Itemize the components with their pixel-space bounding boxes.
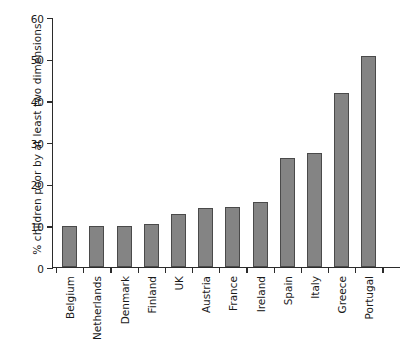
y-axis-tick-label: 60 bbox=[31, 13, 44, 25]
bar bbox=[253, 202, 268, 267]
y-axis-tick-label: 10 bbox=[31, 221, 44, 233]
x-axis-tick-label: Portugal bbox=[363, 276, 375, 320]
x-axis-tick-label: Greece bbox=[336, 276, 348, 313]
x-axis-tick-label: Finland bbox=[146, 276, 158, 314]
x-axis-tick-label: Italy bbox=[309, 276, 321, 299]
y-axis-tick: 10 bbox=[47, 226, 52, 227]
bar bbox=[62, 226, 77, 266]
bar bbox=[307, 153, 322, 266]
y-axis-tick: 20 bbox=[47, 185, 52, 186]
bar bbox=[198, 208, 213, 266]
x-axis-tick-label: Belgium bbox=[64, 276, 76, 319]
y-axis-tick-label: 50 bbox=[31, 54, 44, 66]
x-axis-labels: BelgiumNetherlandsDenmarkFinlandUKAustri… bbox=[52, 270, 400, 343]
x-axis-tick-label: UK bbox=[173, 276, 185, 291]
bar bbox=[361, 56, 376, 267]
bar bbox=[89, 226, 104, 266]
y-axis-tick-label: 40 bbox=[31, 96, 44, 108]
bar bbox=[334, 93, 349, 267]
x-axis-tick-label: Netherlands bbox=[91, 276, 103, 340]
x-axis-tick-label: France bbox=[227, 276, 239, 311]
x-axis-tick-label: Austria bbox=[200, 276, 212, 313]
y-axis-tick: 0 bbox=[47, 268, 52, 269]
bar-chart: % children poor by at least two dimensio… bbox=[0, 0, 420, 343]
x-axis-tick-label: Spain bbox=[282, 276, 294, 305]
y-axis-tick: 40 bbox=[47, 101, 52, 102]
x-axis-tick-label: Ireland bbox=[255, 276, 267, 312]
y-axis-tick: 30 bbox=[47, 143, 52, 144]
bar bbox=[280, 158, 295, 266]
y-axis-tick-label: 20 bbox=[31, 179, 44, 191]
bar bbox=[144, 224, 159, 267]
y-axis-tick-label: 0 bbox=[37, 263, 44, 275]
plot-area: 0102030405060 bbox=[52, 18, 400, 268]
x-axis-line bbox=[52, 267, 400, 268]
y-axis-tick: 60 bbox=[47, 18, 52, 19]
y-axis-line bbox=[52, 18, 53, 269]
bar bbox=[171, 214, 186, 267]
y-axis-tick: 50 bbox=[47, 60, 52, 61]
y-axis-tick-label: 30 bbox=[31, 138, 44, 150]
bar bbox=[225, 207, 240, 267]
bar bbox=[117, 226, 132, 267]
x-axis-tick-label: Denmark bbox=[119, 276, 131, 324]
